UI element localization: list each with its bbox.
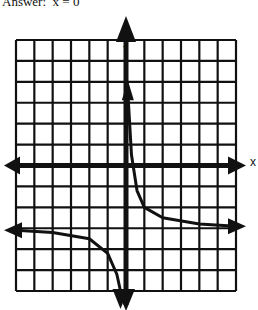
x-axis-arrow-left-icon: [4, 157, 20, 175]
left-branch: [16, 230, 121, 291]
y-axis-label: y: [123, 33, 129, 47]
x-axis-label: x: [250, 155, 256, 169]
curve-arrow-left-icon: [4, 222, 22, 238]
graph: x y: [0, 0, 258, 310]
